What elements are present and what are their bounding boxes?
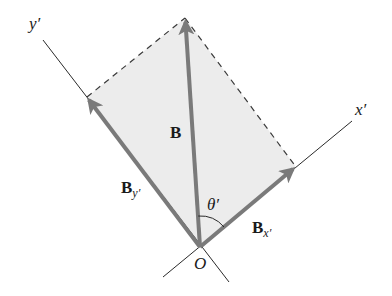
diagram-canvas — [0, 0, 392, 296]
vector-by-label: By′ — [121, 179, 140, 196]
vector-components-diagram: y′ x′ B By′ Bx′ θ′ O — [0, 0, 392, 296]
vector-bx-label-subscript: x′ — [263, 226, 271, 240]
vector-by-label-subscript: y′ — [132, 186, 140, 200]
x-prime-axis-label: x′ — [355, 101, 366, 118]
y-prime-axis-label: y′ — [29, 15, 40, 32]
vector-b-label: B — [170, 124, 181, 141]
theta-prime-label: θ′ — [207, 196, 219, 213]
origin-label: O — [194, 255, 206, 272]
vector-bx-label: Bx′ — [252, 219, 271, 236]
vector-by-label-main: B — [121, 178, 132, 197]
vector-bx-label-main: B — [252, 218, 263, 237]
